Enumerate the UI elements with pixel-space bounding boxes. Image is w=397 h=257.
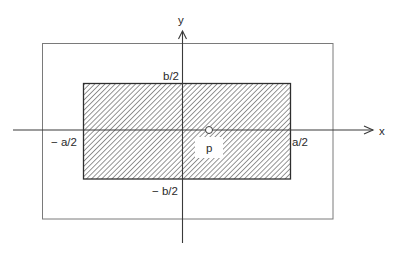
label-left-neg-a-half: − a/2 bbox=[51, 136, 77, 148]
point-p-label: p bbox=[206, 142, 212, 154]
label-right-a-half: a/2 bbox=[292, 136, 308, 148]
point-p-marker bbox=[206, 127, 213, 134]
hatched-region bbox=[84, 84, 291, 180]
label-bottom-neg-b-half: − b/2 bbox=[152, 185, 178, 197]
y-axis-label: y bbox=[178, 14, 184, 26]
coordinate-diagram: y x b/2 − b/2 − a/2 a/2 p bbox=[0, 0, 397, 257]
x-axis-label: x bbox=[379, 125, 385, 137]
label-top-b-half: b/2 bbox=[163, 70, 179, 82]
